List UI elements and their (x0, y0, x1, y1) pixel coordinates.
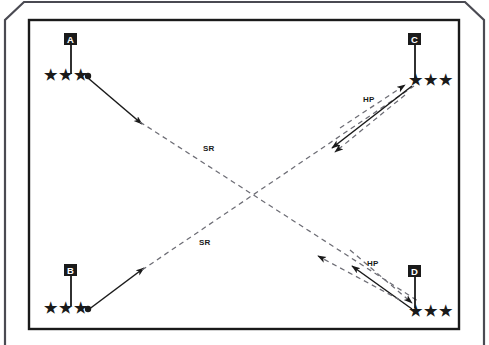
route-label-sr-upper: SR (203, 144, 215, 153)
route-b-to-c-solid (88, 268, 144, 310)
star-icon: ★ (409, 302, 423, 319)
flag-label-a: A (67, 34, 74, 45)
star-group-b: ★ ★ ★ (44, 299, 91, 316)
flag-label-c: C (411, 34, 418, 45)
outer-chamfered-frame (5, 2, 484, 345)
route-hp-d-dashed-out (318, 256, 400, 300)
dot-icon (85, 73, 91, 79)
diagram-canvas: A ★ ★ ★ C ★ ★ ★ B ★ (0, 0, 489, 345)
star-icon: ★ (44, 299, 58, 316)
route-label-sr-lower: SR (199, 238, 211, 247)
route-a-to-d-solid (88, 78, 142, 124)
route-hp-d-solid-out (352, 266, 412, 309)
inner-rectangle-frame (29, 20, 459, 329)
star-group-d: ★ ★ ★ (409, 302, 453, 319)
position-marker-c[interactable]: C ★ ★ ★ (408, 33, 453, 88)
position-marker-b[interactable]: B ★ ★ ★ (44, 264, 91, 316)
route-hp-d-dashed-in (350, 250, 412, 303)
diagram-svg: A ★ ★ ★ C ★ ★ ★ B ★ (0, 0, 489, 345)
star-icon: ★ (409, 71, 423, 88)
route-label-hp-lower: HP (367, 259, 379, 268)
star-icon: ★ (424, 71, 438, 88)
position-marker-d[interactable]: D ★ ★ ★ (408, 265, 453, 319)
position-marker-a[interactable]: A ★ ★ ★ (44, 33, 91, 83)
star-icon: ★ (439, 71, 453, 88)
star-icon: ★ (44, 66, 58, 83)
star-icon: ★ (439, 302, 453, 319)
flag-label-d: D (411, 266, 418, 277)
star-icon: ★ (59, 299, 73, 316)
route-label-hp-upper: HP (363, 95, 375, 104)
star-group-c: ★ ★ ★ (409, 71, 453, 88)
route-hp-d (318, 250, 412, 309)
star-group-a: ★ ★ ★ (44, 66, 91, 83)
route-hp-c-dashed-in (340, 85, 405, 128)
route-b-to-c-dashed (142, 86, 414, 270)
star-icon: ★ (59, 66, 73, 83)
route-a-to-d-dashed (140, 122, 418, 301)
flag-label-b: B (67, 265, 74, 276)
dot-icon (85, 306, 91, 312)
star-icon: ★ (424, 302, 438, 319)
